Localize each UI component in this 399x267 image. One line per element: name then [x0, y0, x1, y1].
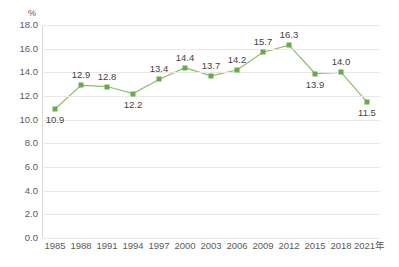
x-axis-tick-label: 1994 — [122, 240, 143, 252]
y-axis-tick-label: 2.0 — [4, 209, 38, 219]
data-point-label: 14.4 — [176, 52, 195, 63]
gridline — [42, 143, 380, 144]
data-point-label: 13.7 — [202, 60, 221, 71]
data-point-marker[interactable] — [235, 67, 240, 72]
data-point-label: 12.9 — [72, 69, 91, 80]
data-point-marker[interactable] — [365, 99, 370, 104]
gridline — [42, 191, 380, 192]
data-point-label: 15.7 — [254, 36, 273, 47]
y-axis-tick-label: 16.0 — [4, 44, 38, 54]
data-point-marker[interactable] — [313, 71, 318, 76]
x-axis-tick-label: 2009 — [252, 240, 273, 252]
y-axis-tick-label: 18.0 — [4, 20, 38, 30]
gridline — [42, 214, 380, 215]
y-axis-tick-label: 4.0 — [4, 186, 38, 196]
y-axis-tick-label: 12.0 — [4, 91, 38, 101]
y-axis-tick-label: 10.0 — [4, 115, 38, 125]
y-axis-tick-label: 6.0 — [4, 162, 38, 172]
gridline — [42, 120, 380, 121]
data-point-marker[interactable] — [105, 84, 110, 89]
x-axis-tick-label: 2000 — [174, 240, 195, 252]
line-chart: % 0.02.04.06.08.010.012.014.016.018.0 10… — [0, 0, 399, 267]
data-point-marker[interactable] — [209, 73, 214, 78]
data-point-marker[interactable] — [157, 77, 162, 82]
y-axis-tick-labels: 0.02.04.06.08.010.012.014.016.018.0 — [0, 25, 38, 238]
data-point-label: 11.5 — [358, 107, 376, 118]
data-point-label: 10.9 — [46, 114, 65, 125]
data-point-label: 13.9 — [306, 79, 325, 90]
x-axis-tick-label: 1985 — [44, 240, 65, 252]
gridline — [42, 167, 380, 168]
x-axis-tick-label: 1988 — [70, 240, 91, 252]
y-axis-tick-label: 0.0 — [4, 233, 38, 243]
data-point-marker[interactable] — [183, 65, 188, 70]
x-axis-tick-labels: 1985198819911994199720002003200620092012… — [42, 240, 380, 260]
data-point-marker[interactable] — [53, 107, 58, 112]
x-axis-tick-label: 2021年 — [354, 240, 385, 252]
data-point-label: 16.3 — [280, 29, 299, 40]
series-line — [42, 25, 380, 238]
x-axis-tick-label: 2018 — [330, 240, 351, 252]
x-axis-tick-label: 1997 — [148, 240, 169, 252]
data-point-marker[interactable] — [261, 50, 266, 55]
data-point-label: 13.4 — [150, 63, 169, 74]
plot-area: 10.912.912.812.213.414.413.714.215.716.3… — [42, 25, 380, 238]
data-point-label: 14.2 — [228, 54, 247, 65]
data-point-marker[interactable] — [79, 83, 84, 88]
y-axis-tick-label: 14.0 — [4, 67, 38, 77]
gridline — [42, 238, 380, 239]
x-axis-tick-label: 2015 — [304, 240, 325, 252]
data-point-marker[interactable] — [287, 43, 292, 48]
y-axis-tick-label: 8.0 — [4, 138, 38, 148]
data-point-marker[interactable] — [131, 91, 136, 96]
gridline — [42, 96, 380, 97]
x-axis-tick-label: 2012 — [278, 240, 299, 252]
data-point-label: 12.8 — [98, 71, 117, 82]
data-point-marker[interactable] — [339, 70, 344, 75]
x-axis-tick-label: 2006 — [226, 240, 247, 252]
gridline — [42, 49, 380, 50]
data-point-label: 14.0 — [332, 56, 351, 67]
y-axis-unit-label: % — [28, 8, 36, 18]
data-point-label: 12.2 — [124, 99, 143, 110]
x-axis-tick-label: 2003 — [200, 240, 221, 252]
gridline — [42, 25, 380, 26]
x-axis-tick-label: 1991 — [96, 240, 117, 252]
